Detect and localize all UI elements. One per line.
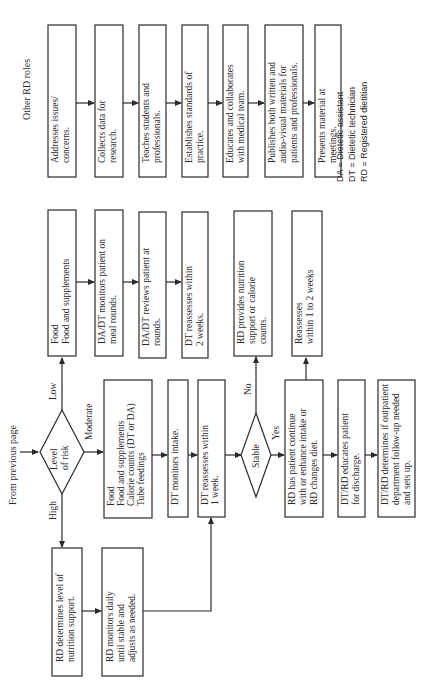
high-label: High — [48, 501, 58, 520]
high-text-line: RD determines level of — [55, 573, 65, 662]
stable-label-line: Stable — [251, 444, 261, 468]
risk-label: Levelof risk — [49, 445, 70, 470]
role-text-line: Presents material at — [317, 88, 327, 163]
legend-line: DT = Dietetic technician — [347, 87, 357, 182]
moderate-text-line: 1 week. — [210, 475, 220, 505]
legend-line: DA = Dietetic assistant — [335, 91, 345, 182]
stable-label: Stable — [251, 444, 261, 468]
role-text-line: professionals. — [152, 110, 162, 163]
low-text-line: 2 weeks. — [195, 313, 205, 346]
risk-label-line: Level — [49, 448, 59, 470]
low-text-line: DA/DT monitors patient on — [97, 239, 107, 344]
no-text-line: RD provides nutrition — [236, 260, 246, 344]
role-text-line: Publishes both written and — [267, 62, 277, 163]
low-label-line: Low — [48, 382, 58, 400]
title-other-rd-roles: Other RD roles — [21, 59, 32, 120]
low-text-line: Food — [50, 324, 60, 344]
no-label-line: No — [243, 383, 253, 395]
yes-text-line: for discharge. — [351, 453, 361, 505]
role-text-line: research. — [108, 129, 118, 163]
moderate-text-line: Tube feedings — [136, 452, 146, 506]
moderate-label: Moderate — [84, 404, 94, 440]
role-text-line: Collects data for — [97, 99, 107, 163]
high-label-line: High — [48, 501, 58, 520]
role-text: Publishes both written andaudio-visual m… — [267, 62, 299, 163]
role-text-line: with medical team. — [236, 90, 246, 163]
low-text-line: meal rounds. — [108, 295, 118, 344]
title-other-rd-roles-line: Other RD roles — [21, 59, 32, 120]
high-text-line: adjusts as needed. — [127, 594, 137, 662]
flowchart: Other RD rolesAddresses issues/concerns.… — [0, 0, 425, 698]
moderate-text-line: Food and supplements — [116, 420, 126, 506]
yes-label: Yes — [271, 426, 281, 440]
no-text-line: counts. — [258, 317, 268, 344]
yes-text-line: department follow-up needed — [391, 393, 401, 505]
role-text-line: concerns. — [61, 127, 71, 163]
yes-text-line: DT/RD determines if outpatient — [380, 384, 390, 505]
no-label: No — [243, 383, 253, 395]
role-text-line: Teaches students and — [141, 83, 151, 163]
low-text-line: DT reassesses within — [184, 266, 194, 346]
yes-label-line: Yes — [271, 426, 281, 440]
start-label-line: From previous page — [7, 424, 18, 505]
no-text-line: within 1 to 2 weeks — [305, 269, 315, 344]
moderate-text-line: Food — [106, 486, 116, 506]
low-text-line: rounds. — [152, 318, 162, 346]
no-text-line: support or calorie — [247, 277, 257, 344]
role-text-line: practice. — [195, 131, 205, 163]
no-text-line: Reassesses — [294, 302, 304, 344]
legend: DA = Dietetic assistantDT = Dietetic tec… — [335, 82, 369, 182]
high-text-line: until stable and — [116, 604, 126, 662]
moderate-text-line: DT monitors intake. — [170, 428, 180, 505]
high-text-line: RD monitors daily — [105, 591, 115, 662]
legend-line: RD = Registered dietitian — [359, 82, 369, 182]
role-text-line: audio-visual materials for — [278, 65, 288, 163]
yes-text-line: DT/RD educates patient — [340, 413, 350, 505]
low-text-line: DA/DT reviews patient at — [141, 247, 151, 346]
risk-label-line: of risk — [60, 445, 70, 470]
yes-text-line: RD changes diet. — [309, 440, 319, 505]
yes-text-line: with or enhance intake or — [298, 408, 308, 505]
role-text-line: Addresses issues/ — [50, 96, 60, 163]
high-to-reassess — [143, 518, 211, 611]
moderate-label-line: Moderate — [84, 404, 94, 440]
low-text-line: Food and supplements — [61, 258, 71, 344]
high-text-line: nutrition support. — [66, 596, 76, 662]
moderate-text-line: DT reassesses within — [200, 425, 210, 505]
low-label: Low — [48, 382, 58, 400]
moderate-text: DT monitors intake. — [170, 428, 180, 505]
role-text-line: patients and professionals. — [289, 62, 299, 163]
yes-text-line: and sets up. — [402, 460, 412, 505]
yes-text-line: RD has patient continue — [287, 413, 297, 505]
role-text-line: Establishes standards of — [184, 71, 194, 163]
start-label: From previous page — [7, 424, 18, 505]
role-text-line: Educates and collaborates — [225, 64, 235, 163]
